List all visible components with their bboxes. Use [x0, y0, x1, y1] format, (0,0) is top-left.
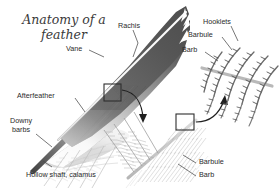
label-hooklets: Hooklets	[203, 18, 231, 26]
arrow-barb-to-barbule-detail	[196, 95, 228, 122]
feather-anatomy-figure: Anatomy of a feather Rachis Vane Afterfe…	[0, 0, 279, 191]
label-barb-bottom: Barb	[199, 171, 214, 179]
label-downy-barbs-line2: barbs	[12, 126, 30, 134]
label-barb-top: Barb	[182, 46, 197, 54]
label-barbule-bottom: Barbule	[199, 158, 224, 166]
label-rachis: Rachis	[118, 22, 140, 30]
label-barbule-top: Barbule	[188, 31, 213, 39]
label-hollow-shaft-calamus: Hollow shaft, calamus	[26, 171, 96, 179]
figure-title: Anatomy of a feather	[12, 12, 116, 42]
label-vane: Vane	[66, 45, 82, 53]
label-afterfeather: Afterfeather	[17, 92, 55, 100]
barbule-hooklet-magnification-illustration	[201, 48, 278, 126]
